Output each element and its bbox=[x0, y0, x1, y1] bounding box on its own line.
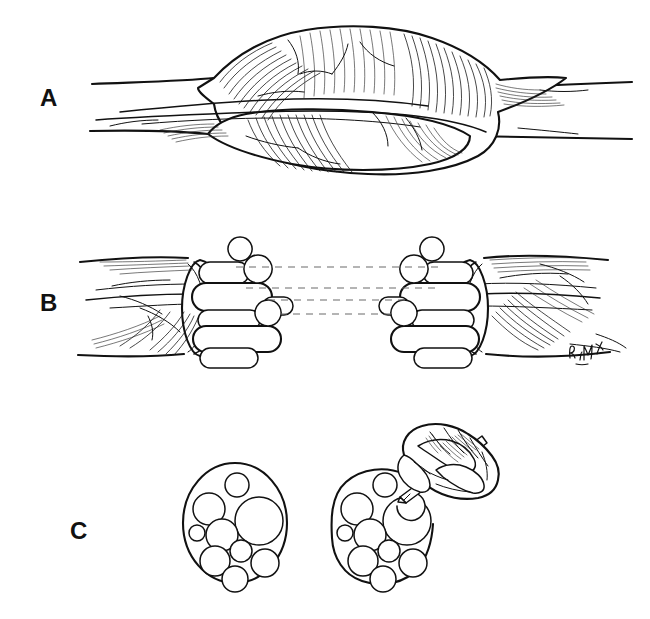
left-fascicle-group bbox=[192, 237, 293, 368]
panel-b-artwork bbox=[78, 237, 626, 368]
panel-c-artwork bbox=[183, 424, 499, 592]
cross-section-left bbox=[183, 463, 287, 592]
figure-canvas: A B C bbox=[0, 0, 650, 619]
panel-a-artwork bbox=[90, 26, 632, 174]
hand-with-pencil bbox=[398, 424, 499, 503]
figure-artwork bbox=[0, 0, 650, 619]
right-fascicle-group bbox=[379, 237, 480, 368]
